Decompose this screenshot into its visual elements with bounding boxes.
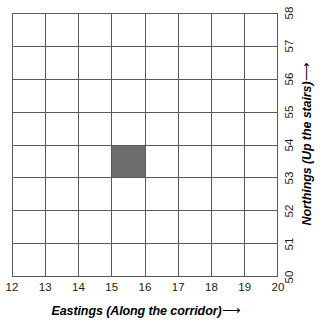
grid-cell bbox=[245, 80, 278, 113]
grid-cell bbox=[179, 14, 212, 47]
grid-cell bbox=[13, 211, 46, 244]
y-axis-title-text: Northings (Up the stairs) bbox=[300, 81, 314, 225]
x-axis-title: Eastings (Along the corridor)⟶ bbox=[0, 303, 290, 318]
grid-cell bbox=[245, 178, 278, 211]
grid-cell bbox=[212, 178, 245, 211]
grid-cell bbox=[112, 113, 145, 146]
grid-cell bbox=[146, 211, 179, 244]
grid-cell bbox=[179, 244, 212, 277]
grid-cell bbox=[112, 80, 145, 113]
grid-cell bbox=[212, 113, 245, 146]
grid-cell bbox=[212, 211, 245, 244]
grid-cell bbox=[112, 211, 145, 244]
grid-cell bbox=[179, 47, 212, 80]
grid-cell bbox=[112, 244, 145, 277]
grid-plot-area bbox=[12, 13, 278, 277]
grid-cell bbox=[212, 47, 245, 80]
grid-cell bbox=[79, 14, 112, 47]
grid-cell bbox=[79, 113, 112, 146]
grid-cell bbox=[79, 146, 112, 179]
grid-cell bbox=[245, 14, 278, 47]
x-axis-tick-label: 12 bbox=[5, 281, 18, 293]
grid-cell bbox=[212, 14, 245, 47]
grid-cell bbox=[212, 80, 245, 113]
grid-cell bbox=[46, 113, 79, 146]
grid-cell bbox=[146, 244, 179, 277]
grid-cell bbox=[245, 47, 278, 80]
grid-cell bbox=[13, 113, 46, 146]
grid-cell bbox=[79, 211, 112, 244]
y-axis-title-text-wrapper: Northings (Up the stairs)⟶ bbox=[299, 64, 314, 225]
grid-cell bbox=[46, 244, 79, 277]
grid-cell bbox=[212, 146, 245, 179]
grid-cell bbox=[179, 113, 212, 146]
grid-reference-diagram: 121314151617181920 Eastings (Along the c… bbox=[0, 0, 323, 326]
grid-cell-filled bbox=[112, 146, 145, 179]
x-axis-tick-label: 15 bbox=[105, 281, 118, 293]
grid-cell bbox=[13, 80, 46, 113]
grid-cell bbox=[245, 211, 278, 244]
grid-cell bbox=[179, 178, 212, 211]
x-axis-tick-label: 14 bbox=[72, 281, 85, 293]
grid-cell bbox=[212, 244, 245, 277]
grid-cell bbox=[245, 113, 278, 146]
grid-cell bbox=[245, 146, 278, 179]
x-axis-tick-label: 18 bbox=[205, 281, 218, 293]
grid-cell bbox=[79, 80, 112, 113]
grid-cell bbox=[79, 178, 112, 211]
grid-cell bbox=[46, 211, 79, 244]
grid-cell bbox=[146, 47, 179, 80]
x-axis-tick-label: 17 bbox=[172, 281, 185, 293]
y-axis-arrow-icon: ⟶ bbox=[300, 64, 314, 81]
grid-cell bbox=[79, 244, 112, 277]
grid-cell bbox=[79, 47, 112, 80]
grid-cell bbox=[245, 244, 278, 277]
grid-cell bbox=[146, 113, 179, 146]
x-axis-title-text: Eastings (Along the corridor) bbox=[51, 304, 221, 318]
grid-cell bbox=[46, 178, 79, 211]
grid-cell bbox=[179, 146, 212, 179]
grid-cell-matrix bbox=[12, 13, 278, 277]
grid-cell bbox=[13, 47, 46, 80]
grid-cell bbox=[179, 211, 212, 244]
grid-cell bbox=[46, 47, 79, 80]
grid-cell bbox=[112, 14, 145, 47]
grid-cell bbox=[146, 80, 179, 113]
grid-cell bbox=[179, 80, 212, 113]
grid-cell bbox=[146, 146, 179, 179]
grid-cell bbox=[13, 146, 46, 179]
grid-cell bbox=[146, 178, 179, 211]
grid-cell bbox=[112, 178, 145, 211]
grid-cell bbox=[112, 47, 145, 80]
grid-cell bbox=[13, 244, 46, 277]
grid-cell bbox=[146, 14, 179, 47]
x-axis-tick-labels: 121314151617181920 bbox=[12, 281, 278, 297]
y-axis-title: Northings (Up the stairs)⟶ bbox=[289, 13, 323, 277]
grid-cell bbox=[46, 80, 79, 113]
x-axis-tick-label: 13 bbox=[39, 281, 52, 293]
grid-cell bbox=[13, 178, 46, 211]
x-axis-tick-label: 19 bbox=[238, 281, 251, 293]
x-axis-arrow-icon: ⟶ bbox=[222, 304, 239, 318]
grid-cell bbox=[46, 14, 79, 47]
grid-cell bbox=[13, 14, 46, 47]
grid-cell bbox=[46, 146, 79, 179]
x-axis-tick-label: 16 bbox=[138, 281, 151, 293]
